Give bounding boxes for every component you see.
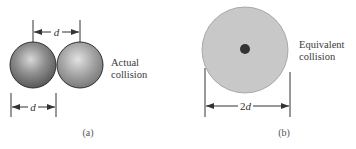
dimension-label-d-top: d bbox=[54, 26, 60, 38]
dimension-label-2d: 2d bbox=[240, 100, 252, 112]
dimension-label-d-bottom: d bbox=[30, 101, 36, 113]
panel-a: d d Actual collision (a) bbox=[10, 20, 148, 139]
point-molecule-dot bbox=[240, 44, 250, 54]
sphere-left bbox=[10, 42, 56, 88]
top-dimension-d: d bbox=[33, 20, 80, 45]
equivalent-collision-label-line2: collision bbox=[299, 51, 336, 62]
collision-diagram: d d Actual collision (a) 2d bbox=[0, 0, 356, 149]
caption-b: (b) bbox=[278, 127, 290, 139]
sphere-right bbox=[57, 42, 103, 88]
bottom-dimension-d: d bbox=[11, 93, 56, 117]
caption-a: (a) bbox=[82, 127, 93, 139]
equivalent-collision-label-line1: Equivalent bbox=[299, 39, 345, 50]
actual-collision-label-line1: Actual bbox=[111, 57, 139, 68]
actual-collision-label-line2: collision bbox=[111, 69, 148, 80]
panel-b: 2d Equivalent collision (b) bbox=[202, 7, 345, 139]
